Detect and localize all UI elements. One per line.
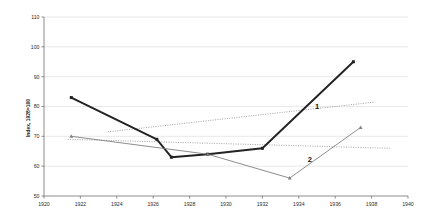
y-tick-label-90: 90 [34,74,40,80]
chart-container: 5060708090100110 19201922192419261928193… [0,0,427,222]
x-tick-label-1920: 1920 [38,201,50,207]
x-tick-label-1940: 1940 [402,201,414,207]
y-tick-label-100: 100 [31,44,40,50]
x-tick-label-1938: 1938 [366,201,378,207]
y-tick-label-50: 50 [34,193,40,199]
x-tick-label-1924: 1924 [111,201,123,207]
chart-background [0,0,427,222]
marker-square-series-1-0 [70,96,73,99]
x-tick-label-1936: 1936 [329,201,341,207]
y-tick-label-70: 70 [34,133,40,139]
y-tick-label-110: 110 [31,14,39,20]
y-tick-label-80: 80 [34,103,40,109]
marker-square-series-1-4 [261,147,264,150]
x-tick-label-1928: 1928 [184,201,196,207]
marker-square-series-1-2 [170,156,173,159]
y-tick-label-60: 60 [34,163,40,169]
series-annotation-2: 2 [308,155,312,164]
line-chart: 5060708090100110 19201922192419261928193… [0,0,427,222]
x-tick-label-1926: 1926 [147,201,159,207]
y-axis-title-group: Index, 1928=100 [25,99,31,137]
x-tick-label-1922: 1922 [75,201,87,207]
x-tick-label-1930: 1930 [220,201,232,207]
series-annotation-1: 1 [315,102,319,111]
x-tick-label-1934: 1934 [293,201,305,207]
marker-square-series-1-5 [352,60,355,63]
x-tick-label-1932: 1932 [257,201,269,207]
marker-square-series-1-1 [155,138,158,141]
y-axis-title: Index, 1928=100 [25,99,31,137]
